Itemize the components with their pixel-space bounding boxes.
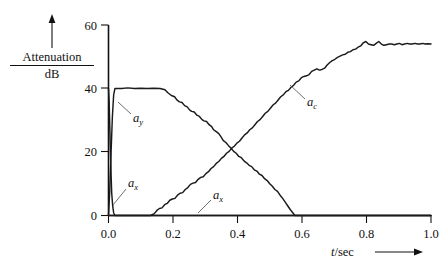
curve-ac [109, 42, 432, 216]
x-axis-label: t/sec [331, 245, 423, 259]
label-ax-baseline: ax [213, 188, 223, 204]
label-ax-left-sub: x [133, 182, 138, 192]
y-tick-label-20: 20 [85, 145, 98, 159]
y-axis-ticks: 0 20 40 60 [85, 19, 109, 224]
x-axis-ticks: 0.0 0.2 0.4 0.6 0.8 1.0 [101, 216, 439, 242]
y-axis-direction-arrow [49, 14, 56, 48]
leader-line-ac [290, 85, 305, 99]
x-tick-label-5: 1.0 [423, 227, 439, 241]
label-ay-sub: y [138, 117, 143, 127]
plot-area: Attenuation dB 0 20 40 60 [0, 0, 439, 263]
attenuation-chart-figure: Attenuation dB 0 20 40 60 [0, 0, 439, 263]
x-tick-label-3: 0.6 [294, 227, 310, 241]
y-tick-label-40: 40 [85, 82, 98, 96]
label-ac: ac [307, 95, 317, 111]
label-ay: ay [133, 111, 143, 127]
leader-line-ax-baseline [198, 200, 211, 213]
y-tick-label-60: 60 [85, 19, 98, 33]
data-curves [109, 42, 432, 216]
axis-lines [108, 25, 431, 216]
y-axis-label-denominator: dB [45, 67, 60, 81]
label-ax-baseline-sub: x [218, 194, 223, 204]
leader-line-ax-left [113, 189, 126, 205]
x-tick-label-0: 0.0 [101, 227, 117, 241]
y-tick-label-0: 0 [91, 209, 97, 223]
leader-line-ay [118, 102, 131, 114]
label-ac-sub: c [313, 101, 317, 111]
x-tick-label-1: 0.2 [165, 227, 181, 241]
y-axis-label: Attenuation dB [10, 50, 94, 81]
curve-ay [109, 88, 432, 216]
curve-ax [109, 89, 432, 216]
curve-annotations: ay ax ax ac [113, 85, 317, 213]
x-axis-label-rest-part: /sec [334, 245, 354, 259]
x-axis-direction-arrow-head [414, 249, 423, 256]
y-axis-label-numerator: Attenuation [22, 50, 82, 64]
label-ax-left: ax [128, 176, 138, 192]
x-axis-label-text: t/sec [331, 245, 354, 259]
x-tick-label-4: 0.8 [359, 227, 375, 241]
x-tick-label-2: 0.4 [230, 227, 246, 241]
